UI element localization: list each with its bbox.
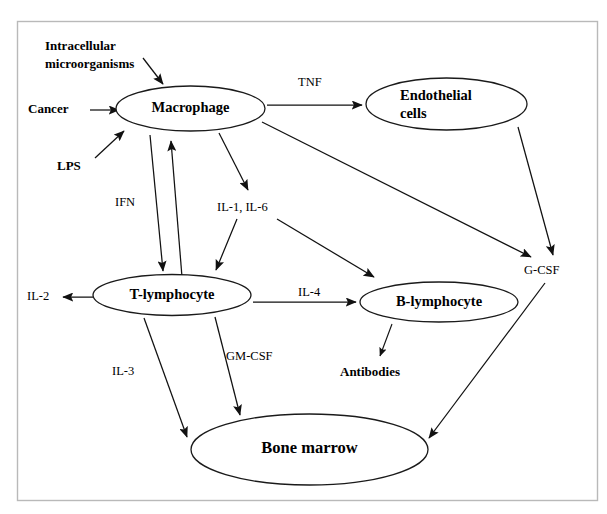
edge-label-ifn: IFN [115,195,135,209]
stimulus-intracellular-microorganisms-line1: Intracellular [45,38,116,53]
node-endothelial-cells[interactable] [366,78,527,130]
product-gcsf-label: G-CSF [524,263,559,277]
node-b-lymphocyte-label: B-lymphocyte [396,293,483,309]
edge-label-il3: IL-3 [112,364,134,378]
node-macrophage-label: Macrophage [152,99,230,115]
node-endothelial-cells-label-line1: Endothelial [400,87,472,103]
node-bone-marrow-label: Bone marrow [261,438,357,457]
edge-label-il4: IL-4 [298,285,321,299]
node-endothelial-cells-label-line2: cells [400,105,427,121]
product-antibodies-label: Antibodies [340,364,400,379]
product-il1-il6-label: IL-1, IL-6 [217,200,268,214]
stimulus-intracellular-microorganisms-line2: microorganisms [45,56,134,71]
diagram-canvas: Macrophage Endothelial cells T-lymphocyt… [0,0,607,514]
node-t-lymphocyte-label: T-lymphocyte [130,286,215,302]
edge-label-tnf: TNF [298,75,322,89]
stimulus-cancer-label: Cancer [28,101,69,116]
product-il2-label: IL-2 [27,289,49,303]
immune-signalling-diagram: Macrophage Endothelial cells T-lymphocyt… [0,0,607,514]
edge-label-gmcsf: GM-CSF [226,349,273,363]
stimulus-lps-label: LPS [57,158,81,173]
